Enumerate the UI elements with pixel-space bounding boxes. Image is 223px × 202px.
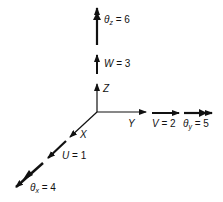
u-label: U = 1 [62,150,87,161]
theta-z-second-head [93,12,101,20]
coordinate-diagram: Z Y X W = 3 θz = 6 V = 2 θy = 5 U = 1 θx… [0,0,223,202]
y-axis-label: Y [128,118,136,129]
theta-z-label: θz = 6 [104,14,130,26]
w-label: W = 3 [104,58,131,69]
v-label: V = 2 [152,118,176,129]
theta-y-label: θy = 5 [183,118,209,131]
z-axis-label: Z [102,83,110,94]
theta-x-second-head [22,170,33,181]
x-axis-label: X [79,129,87,140]
theta-x-label: θx = 4 [30,182,56,194]
theta-y-second-head [199,109,207,117]
